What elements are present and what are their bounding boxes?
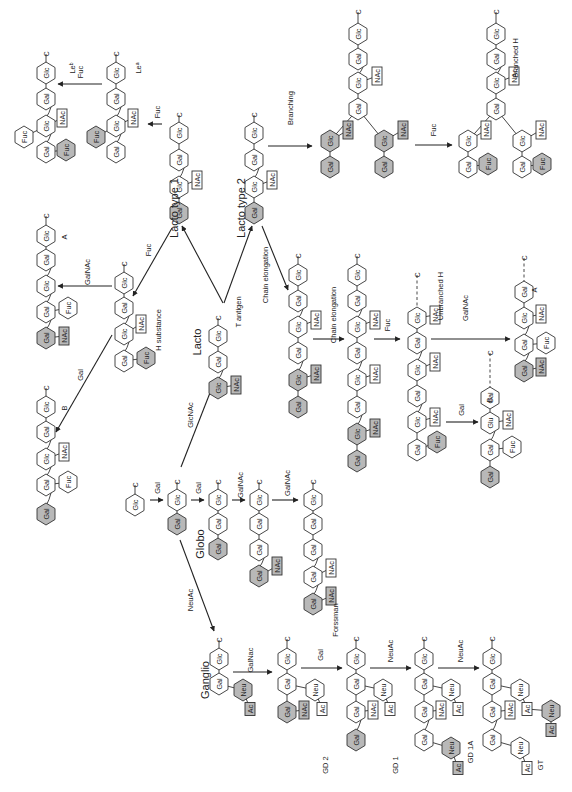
residue-label: Glc [214, 494, 223, 505]
residue-nac: NAc [370, 365, 380, 383]
residue-label: NAc [373, 69, 382, 83]
molecule-elongated-1: GlcGalGlcNAcGalGlcNAcGal [289, 264, 321, 418]
residue-label: Fuc [20, 131, 29, 143]
residue-gal: Gal [483, 729, 501, 751]
residue-label: Fuc [508, 441, 517, 453]
residue-label: Neu [516, 683, 525, 696]
residue-label: Ac [454, 763, 463, 772]
residue-glc: Glc [107, 62, 125, 84]
residue-label: Glc [214, 382, 223, 393]
residue-label: Fuc [92, 131, 101, 143]
residue-label: Glc [354, 77, 363, 88]
residue-label: Gal [42, 306, 51, 318]
residue-label: Glc [42, 280, 51, 291]
molecule-forssman-chain: GlcGalGalGalNAcGalNAc [304, 489, 336, 615]
residue-label: Gal [354, 53, 363, 65]
residue-label: Gal [42, 508, 51, 520]
enzyme-label-chain-elongation: Chain elongation [261, 247, 270, 303]
residue-label: Gal [518, 161, 527, 173]
residue-nac: NAc [536, 305, 546, 323]
residue-label: Ac [523, 704, 532, 713]
residue-glc: Glc [348, 316, 366, 338]
residue-gal: Gal [304, 539, 322, 561]
residue-glc: Glc [209, 377, 227, 399]
residue-label: Gal [488, 734, 497, 746]
residue-label: Glc [353, 374, 362, 385]
ceramide-anchor-label: C [215, 637, 224, 642]
residue-glc: Glc [349, 23, 367, 45]
residue-label: Gal [42, 93, 51, 105]
residue-label: Glc [214, 330, 223, 341]
molecule-branched-h-chain: GlcGalGlcNAcGalGlcNAcGalFucGlcNAcGalFuc [459, 23, 551, 178]
residue-gal: Gal [483, 673, 501, 695]
residue-label: Gal [464, 161, 473, 173]
residue-label: Glc [131, 499, 140, 510]
residue-glc: Glc [115, 323, 133, 345]
residue-label: Gal [112, 93, 121, 105]
product-label-gt: GT [536, 759, 545, 770]
residue-nac: NAc [398, 121, 408, 139]
residue-neu: Neu [542, 700, 560, 722]
residue-label: Glc [354, 28, 363, 39]
residue-fuc: Fuc [137, 347, 155, 369]
residue-label: Gal [309, 518, 318, 530]
residue-ac: Ac [453, 762, 463, 775]
ceramide-anchor-label: C [42, 51, 51, 56]
residue-label: Neu [516, 741, 525, 754]
residue-glc: Glc [483, 648, 501, 670]
molecule-lea: GlcGalGlcNAcFucGal [87, 62, 138, 163]
residue-label: Ac [547, 725, 556, 734]
residue-gal: Gal [37, 88, 55, 110]
residue-neu: Neu [442, 679, 460, 701]
residue-label: Gal [309, 544, 318, 556]
residue-gal: Gal [408, 332, 426, 354]
residue-gal: Gal [408, 385, 426, 407]
residue-label: NAc [137, 317, 146, 331]
residue-nac: NAc [430, 353, 440, 371]
reaction-gal-h-to-b [56, 335, 112, 432]
residue-nac: NAc [57, 109, 67, 127]
enzyme-label-fuc: Fuc [144, 244, 153, 257]
residue-label: NAc [482, 123, 491, 137]
residue-label: Glc [353, 428, 362, 439]
molecule-unbranched-h-chain: GlcNAcGalGlcNAcGalGlcNAcGalFuc [408, 306, 446, 461]
residue-label: Gal [413, 337, 422, 349]
residue-label: Glc [353, 321, 362, 332]
residue-nac: NAc [368, 701, 378, 719]
residue-label: Gal [488, 678, 497, 690]
residue-label: Gal [413, 390, 422, 402]
residue-label: NAc [312, 313, 321, 327]
residue-glc: Glc [349, 72, 367, 94]
product-label-a-antigen-type1: A [60, 234, 69, 239]
residue-nac: NAc [326, 559, 336, 577]
enzyme-label-fuc: Fuc [383, 319, 392, 332]
enzyme-label-gal: Gal [76, 369, 85, 381]
residue-fuc: Fuc [428, 431, 446, 453]
molecule-a-type2: GalGlcNAcGalFucGalNAc [515, 281, 555, 382]
product-label-le-a: Leᵃ [134, 62, 143, 73]
residue-fuc: Fuc [15, 126, 33, 148]
residue-label: Glc [380, 135, 389, 146]
residue-glc: Glc [37, 62, 55, 84]
residue-label: NAc [232, 378, 241, 392]
residue-label: NAc [431, 410, 440, 424]
residue-ac: Ac [245, 703, 255, 716]
ceramide-anchor-label: C [420, 636, 429, 641]
residue-label: Glc [283, 653, 292, 664]
residue-glc: Glc [515, 307, 533, 329]
residue-label: Glu [486, 417, 495, 428]
residue-label: Gal [42, 146, 51, 158]
residue-glc: Glc [126, 494, 144, 516]
enzyme-label-gal: Gal [153, 482, 162, 494]
residue-ac: Ac [317, 703, 327, 716]
residue-label: Gal [413, 444, 422, 456]
residue-gal: Gal [289, 342, 307, 364]
residue-glc: Glc [408, 307, 426, 329]
residue-gal: Gal [209, 513, 227, 535]
residue-nac: NAc [267, 171, 277, 189]
residue-gal: Gal [487, 48, 505, 70]
product-label-b-antigen-type1: B [60, 405, 69, 410]
product-label-gd1: GD 1 [391, 756, 400, 774]
residue-label: Glc [413, 364, 422, 375]
residue-gal: Gal [37, 249, 55, 271]
